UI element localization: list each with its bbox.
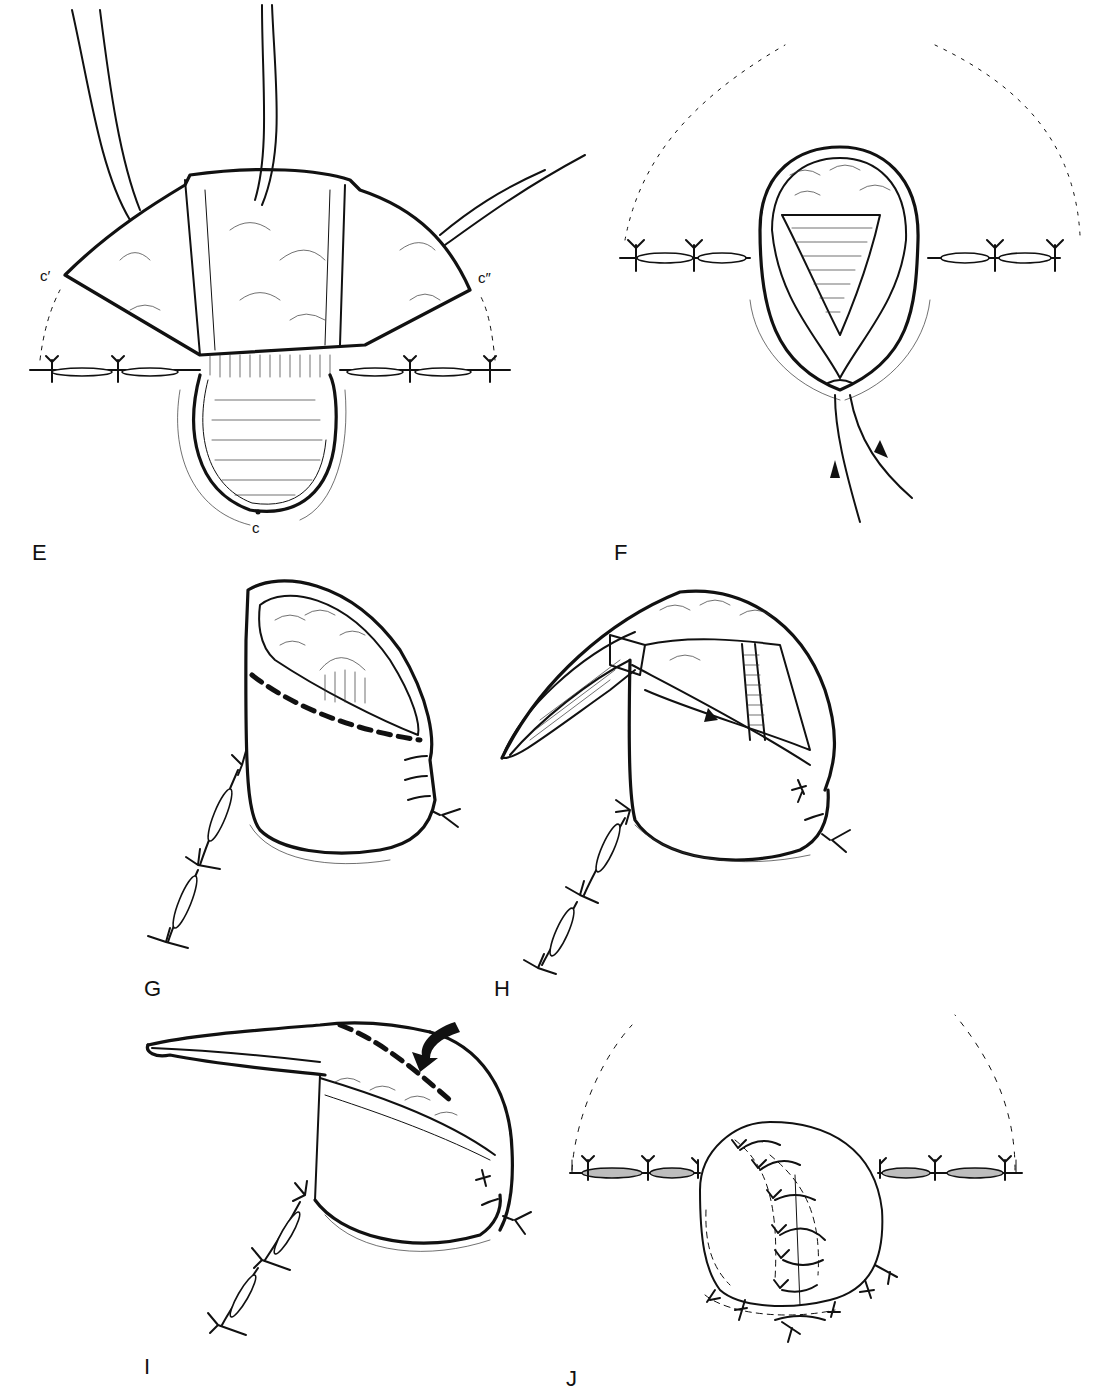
stoma-sutures-icon (707, 1140, 897, 1342)
skin-sutures-icon (628, 240, 1063, 271)
label-c: c (252, 520, 260, 535)
panel-g-illustration (100, 560, 480, 1020)
panel-label-h: H (494, 978, 510, 1000)
arrow-up-icon (830, 460, 840, 478)
panel-i: I (130, 1020, 550, 1396)
panel-label-g: G (144, 978, 161, 1000)
flap-outline (148, 1023, 430, 1045)
pouch-body-outline (629, 660, 828, 860)
panel-f: F (560, 0, 1116, 580)
skin-sutures-icon (582, 1156, 1011, 1180)
label-c-prime: c′ (40, 268, 50, 283)
pouch-body-outline (246, 581, 435, 853)
panel-i-illustration (130, 1020, 550, 1396)
inner-lumen (782, 215, 880, 335)
stoma-outline (760, 147, 918, 390)
stoma-outline (700, 1122, 882, 1306)
incision-dashed-line (252, 675, 420, 740)
flap-outline (65, 170, 470, 355)
top-suture-icon (255, 5, 277, 205)
label-c-double-prime: c″ (478, 270, 491, 285)
panel-h: H (480, 560, 880, 1020)
arrow-down-icon (874, 440, 888, 458)
pouch-body-outline (315, 1195, 500, 1243)
panel-g: G (100, 560, 480, 1020)
left-suture-icon (72, 10, 140, 220)
panel-h-illustration (480, 560, 880, 1020)
pouch-sutures-icon (792, 780, 850, 852)
panel-f-illustration (560, 0, 1116, 580)
panel-e: c′ c″ c E (0, 0, 560, 580)
flap-outline (502, 591, 834, 790)
pouch-outline (194, 375, 336, 511)
panel-j-illustration (560, 1010, 1116, 1396)
panel-label-i: I (144, 1356, 150, 1378)
panel-label-j: J (566, 1368, 577, 1390)
panel-e-illustration (0, 0, 560, 580)
panel-j: J (560, 1010, 1116, 1396)
panel-label-e: E (32, 542, 47, 564)
